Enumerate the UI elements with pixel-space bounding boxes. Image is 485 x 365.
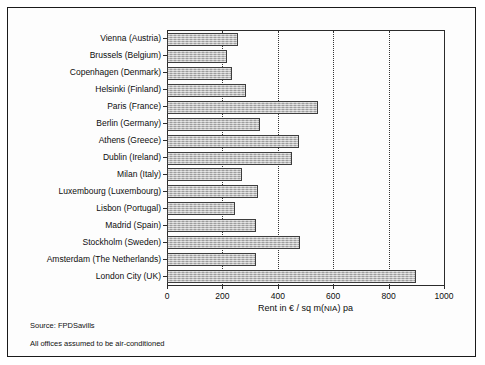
plot-area <box>167 30 445 286</box>
bar-lisbon-portugal <box>167 202 235 215</box>
bar-madrid-spain <box>167 219 256 232</box>
category-label: Madrid (Spain) <box>8 220 161 230</box>
category-tick <box>163 38 167 39</box>
chart-figure: Vienna (Austria)Brussels (Belgium)Copenh… <box>7 7 476 357</box>
category-tick <box>163 208 167 209</box>
category-label: Luxembourg (Luxembourg) <box>8 186 161 196</box>
bar-berlin-germany <box>167 118 260 131</box>
bar-luxembourg-luxembourg <box>167 185 258 198</box>
category-label: Lisbon (Portugal) <box>8 203 161 213</box>
category-label: Amsterdam (The Netherlands) <box>8 254 161 264</box>
category-label: Paris (France) <box>8 101 161 111</box>
gridline-800 <box>389 31 390 285</box>
x-tick-label-0: 0 <box>147 291 187 301</box>
category-label: Helsinki (Finland) <box>8 84 161 94</box>
category-tick <box>163 259 167 260</box>
aircon-note: All offices assumed to be air-conditione… <box>30 339 165 348</box>
category-label: Athens (Greece) <box>8 135 161 145</box>
x-tick-label-800: 800 <box>369 291 409 301</box>
category-tick <box>163 191 167 192</box>
category-label: London City (UK) <box>8 271 161 281</box>
bar-paris-france <box>167 101 318 114</box>
category-label: Berlin (Germany) <box>8 118 161 128</box>
category-tick <box>163 242 167 243</box>
bar-brussels-belgium <box>167 50 227 63</box>
x-tick-label-200: 200 <box>202 291 242 301</box>
category-tick <box>163 72 167 73</box>
x-axis-title: Rent in € / sq m(NIA) pa <box>167 303 444 313</box>
category-label: Stockholm (Sweden) <box>8 237 161 247</box>
source-note: Source: FPDSavills <box>30 321 95 330</box>
category-label: Milan (Italy) <box>8 169 161 179</box>
x-tick-1000 <box>444 285 445 289</box>
bar-helsinki-finland <box>167 84 246 97</box>
category-tick <box>163 55 167 56</box>
category-tick <box>163 225 167 226</box>
gridline-600 <box>333 31 334 285</box>
category-tick <box>163 157 167 158</box>
x-axis-title-nia: NIA <box>324 304 337 313</box>
category-label: Dublin (Ireland) <box>8 152 161 162</box>
bar-dublin-ireland <box>167 152 292 165</box>
x-tick-600 <box>333 285 334 289</box>
bar-copenhagen-denmark <box>167 67 232 80</box>
category-label: Copenhagen (Denmark) <box>8 67 161 77</box>
category-label: Brussels (Belgium) <box>8 50 161 60</box>
bar-vienna-austria <box>167 33 238 46</box>
x-axis-title-tail: ) pa <box>337 303 353 313</box>
category-tick <box>163 123 167 124</box>
category-label: Vienna (Austria) <box>8 33 161 43</box>
bar-athens-greece <box>167 135 299 148</box>
x-tick-800 <box>389 285 390 289</box>
bar-london-city-uk <box>167 270 416 283</box>
x-tick-200 <box>222 285 223 289</box>
category-tick <box>163 174 167 175</box>
x-tick-label-400: 400 <box>258 291 298 301</box>
x-tick-label-1000: 1000 <box>424 291 464 301</box>
category-tick <box>163 89 167 90</box>
x-axis-title-main: Rent in € / sq m( <box>258 303 324 313</box>
bar-stockholm-sweden <box>167 236 300 249</box>
bar-milan-italy <box>167 168 242 181</box>
category-tick <box>163 276 167 277</box>
category-tick <box>163 140 167 141</box>
bar-amsterdam-the-netherlands <box>167 253 256 266</box>
x-tick-label-600: 600 <box>313 291 353 301</box>
category-tick <box>163 106 167 107</box>
x-tick-400 <box>278 285 279 289</box>
x-tick-0 <box>167 285 168 289</box>
